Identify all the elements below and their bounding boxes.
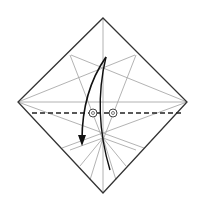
fold-arrow-curve	[82, 57, 106, 140]
paper-outline	[18, 18, 187, 193]
origami-diagram	[0, 0, 200, 201]
crease-lines	[18, 18, 187, 193]
reference-circle-left	[89, 109, 97, 117]
reference-circle-right	[109, 109, 117, 117]
